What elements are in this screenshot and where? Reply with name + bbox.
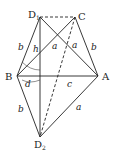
label-a-diag1: a [52,41,57,51]
label-a-diag2: a [72,40,77,50]
label-b-left-top: b [18,42,24,52]
label-d: d [25,79,31,89]
label-a: A [101,71,110,82]
label-c-base: c [67,79,72,89]
label-d1: D1 [28,9,40,21]
label-b-right: b [91,42,97,52]
label-c: C [78,11,86,22]
label-h: h [33,44,39,54]
label-b-left-bottom: b [18,104,24,114]
label-d2: D2 [34,139,46,151]
geometry-diagram: D1 C B A D2 b h a a b d c b a [0,0,116,153]
edge-d1-a [40,17,98,76]
label-b: B [5,71,12,82]
label-a-bottom: a [76,102,81,112]
